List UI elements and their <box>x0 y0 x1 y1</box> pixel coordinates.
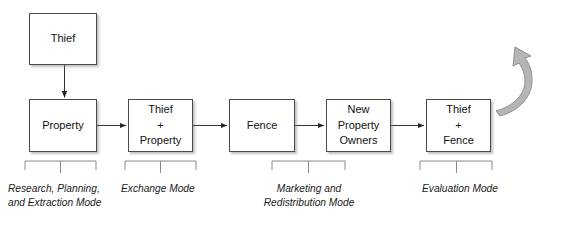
node-fence[interactable]: Fence <box>229 99 295 152</box>
node-fence-label: Fence <box>244 118 281 134</box>
node-thief-property[interactable]: Thief + Property <box>128 99 193 152</box>
node-new-property-owners-label: New Property Owners <box>327 102 390 150</box>
bracket-exchange <box>125 161 196 173</box>
phase-label-evaluation: Evaluation Mode <box>422 182 498 196</box>
phase-label-research-planning-extraction: Research, Planning, and Extraction Mode <box>8 182 101 211</box>
bracket-evaluation <box>420 161 492 173</box>
node-property-label: Property <box>39 118 87 134</box>
bracket-marketing-redistribution <box>272 161 345 173</box>
node-new-property-owners[interactable]: New Property Owners <box>326 99 391 152</box>
arrow-thief-fence-recycle <box>496 47 532 116</box>
node-property[interactable]: Property <box>29 99 97 152</box>
phase-label-marketing-redistribution: Marketing and Redistribution Mode <box>264 182 355 211</box>
node-thief-fence-label: Thief + Fence <box>440 102 477 150</box>
bracket-research-planning-extraction <box>25 161 96 173</box>
node-thief-label: Thief <box>48 31 78 47</box>
node-thief-property-label: Thief + Property <box>137 102 185 150</box>
phase-label-exchange: Exchange Mode <box>121 182 195 196</box>
node-thief-fence[interactable]: Thief + Fence <box>426 99 491 152</box>
diagram-canvas: Thief Property Thief + Property Fence Ne… <box>0 0 566 229</box>
node-thief[interactable]: Thief <box>29 13 97 65</box>
